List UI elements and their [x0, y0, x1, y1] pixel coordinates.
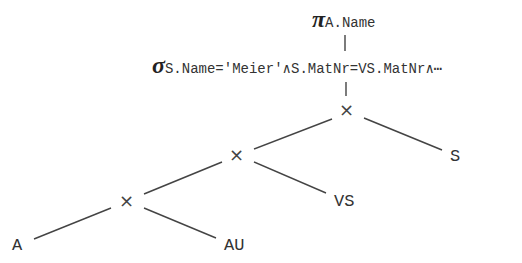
edge-cross1-s	[364, 118, 442, 150]
edge-cross1-cross2	[254, 119, 332, 149]
edge-cross2-cross3	[144, 162, 222, 194]
sigma-symbol: σ	[152, 52, 165, 78]
tree-edges	[0, 0, 522, 263]
projection-node: πA.Name	[312, 6, 376, 33]
leaf-s: S	[450, 147, 460, 166]
selection-node: σS.Name='Meier'∧S.MatNr=VS.MatNr∧⋯	[152, 52, 442, 79]
pi-symbol: π	[312, 6, 325, 32]
selection-subscript: S.Name='Meier'∧S.MatNr=VS.MatNr∧⋯	[165, 61, 442, 77]
projection-subscript: A.Name	[325, 15, 375, 31]
leaf-vs: VS	[334, 192, 354, 211]
edge-cross3-a	[34, 208, 111, 239]
edge-cross3-au	[144, 208, 216, 238]
edge-cross2-vs	[254, 162, 326, 193]
cross-product-node-2: ×	[229, 144, 244, 165]
cross-product-node-3: ×	[119, 190, 134, 211]
leaf-a: A	[12, 236, 22, 255]
leaf-au: AU	[224, 236, 244, 255]
cross-product-node-1: ×	[339, 99, 354, 120]
